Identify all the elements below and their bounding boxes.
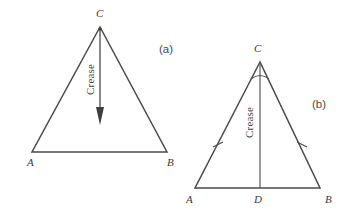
panel-caption-a: (a)	[159, 43, 173, 55]
panel-caption-b: (b)	[312, 98, 326, 110]
panel-b: C A B D Crease (b)	[185, 42, 332, 205]
vertex-label-b-C: C	[254, 42, 262, 54]
vertex-label-a-B: B	[167, 156, 174, 168]
crease-label-a: Crease	[84, 64, 96, 95]
crease-arrow-origin-a	[98, 27, 101, 30]
crease-label-b: Crease	[243, 107, 255, 138]
vertex-label-a-C: C	[96, 7, 104, 19]
vertex-label-b-A: A	[185, 193, 193, 205]
vertex-label-b-B: B	[325, 193, 332, 205]
geometry-figure: C A B Crease (a) C A B D Creas	[0, 0, 346, 217]
crease-arrow-head-a	[96, 107, 104, 125]
vertex-label-b-D: D	[253, 193, 262, 205]
triangle-b-outline	[195, 62, 320, 188]
vertex-label-a-A: A	[26, 156, 34, 168]
panel-a: C A B Crease (a)	[26, 7, 174, 168]
figure-root: C A B Crease (a) C A B D Creas	[0, 0, 346, 217]
